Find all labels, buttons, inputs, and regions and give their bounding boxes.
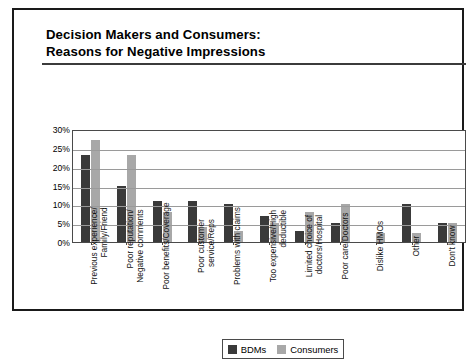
x-axis-category-label: Limited choice of doctors/Hospital bbox=[305, 215, 324, 277]
legend-swatch bbox=[277, 345, 286, 354]
bar-bdms bbox=[402, 204, 411, 242]
y-axis-tick-label: 15% bbox=[53, 182, 70, 192]
chart-legend: BDMsConsumers bbox=[222, 339, 344, 359]
x-axis-category: Dislike HMOs bbox=[359, 246, 395, 358]
chart-title-line-1: Decision Makers and Consumers: bbox=[46, 27, 446, 44]
x-axis-category-label: Poor reputation/ Negative comments bbox=[126, 209, 145, 282]
chart-title: Decision Makers and Consumers: Reasons f… bbox=[46, 27, 446, 61]
x-axis-category-label: Too expensive/High deductible bbox=[269, 210, 288, 282]
gridline bbox=[73, 150, 465, 151]
x-axis-category-label: Dislike HMOs bbox=[376, 221, 386, 271]
legend-item: BDMs bbox=[228, 344, 267, 355]
x-axis-category-label: Poor benefits/Coverage bbox=[162, 202, 172, 289]
x-axis-category: Poor benefits/Coverage bbox=[144, 246, 180, 358]
y-axis-tick-label: 20% bbox=[53, 163, 70, 173]
chart-title-line-2: Reasons for Negative Impressions bbox=[46, 44, 446, 61]
y-axis-tick-label: 0% bbox=[58, 238, 70, 248]
x-axis-category: Other bbox=[394, 246, 430, 358]
y-axis-tick-label: 10% bbox=[53, 200, 70, 210]
gridline bbox=[73, 169, 465, 170]
x-axis-category-label: Problems with claims bbox=[233, 207, 243, 285]
legend-label: BDMs bbox=[241, 344, 267, 355]
chart-outer-frame: Decision Makers and Consumers: Reasons f… bbox=[12, 8, 464, 311]
y-axis-tick-label: 30% bbox=[53, 125, 70, 135]
y-axis-tick-labels: 30%25%20%15%10%5%0% bbox=[42, 130, 70, 244]
x-axis-category: Poor customer service/Reps bbox=[179, 246, 215, 358]
x-axis-category-label: Don't know bbox=[448, 226, 458, 267]
x-axis-category-label: Poor care/Doctors bbox=[341, 213, 351, 280]
x-axis-category-label: Poor customer service/Reps bbox=[197, 219, 216, 273]
x-axis-category-label: Previous experience/ Family/Friend bbox=[90, 207, 109, 284]
bar-bdms bbox=[295, 231, 304, 242]
x-axis-category: Poor reputation/ Negative comments bbox=[108, 246, 144, 358]
y-axis-tick-label: 5% bbox=[58, 219, 70, 229]
x-axis-category: Previous experience/ Family/Friend bbox=[72, 246, 108, 358]
legend-swatch bbox=[228, 345, 237, 354]
title-divider bbox=[42, 63, 466, 65]
x-axis-category: Don't know bbox=[430, 246, 466, 358]
chart-area: 30%25%20%15%10%5%0% Previous experience/… bbox=[42, 70, 466, 310]
legend-item: Consumers bbox=[277, 344, 338, 355]
gridline bbox=[73, 188, 465, 189]
legend-label: Consumers bbox=[290, 344, 338, 355]
gridline bbox=[73, 206, 465, 207]
y-axis-tick-label: 25% bbox=[53, 144, 70, 154]
x-axis-category-label: Other bbox=[412, 236, 422, 257]
